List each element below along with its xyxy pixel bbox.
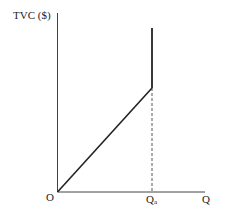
x-tick-qa-sub: a: [154, 198, 158, 206]
x-tick-qa: Qa: [146, 193, 158, 206]
y-axis-label: TVC ($): [13, 9, 51, 22]
x-axis-label: Q: [202, 193, 210, 205]
tvc-chart: TVC ($) O Qa Q: [0, 0, 225, 217]
tvc-linear-segment: [58, 88, 153, 192]
x-tick-qa-main: Q: [146, 193, 154, 205]
origin-label: O: [46, 191, 54, 203]
